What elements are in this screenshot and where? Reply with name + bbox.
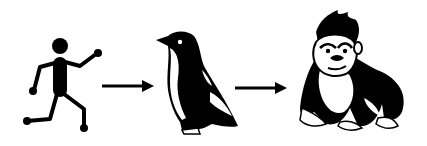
arrow-connector-1 — [100, 79, 155, 93]
arrow-connector-2 — [233, 81, 288, 95]
stick-figure: Running stick figure — [20, 34, 110, 134]
penguin: Penguin — [152, 30, 242, 138]
penguin-icon — [152, 30, 242, 138]
diagram-canvas: Running stick figure Penguin — [0, 0, 427, 146]
gorilla: Gorilla — [294, 8, 419, 136]
running-person-icon — [20, 34, 110, 134]
right-arrow-icon — [100, 79, 155, 93]
right-arrow-icon — [233, 81, 288, 95]
gorilla-icon — [294, 8, 419, 136]
